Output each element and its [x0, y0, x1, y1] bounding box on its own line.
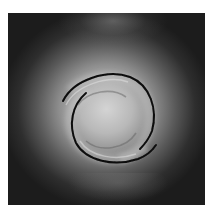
- spiral-arms: [8, 13, 205, 205]
- spiral-photo: [8, 13, 205, 205]
